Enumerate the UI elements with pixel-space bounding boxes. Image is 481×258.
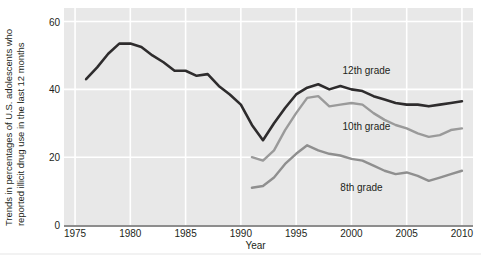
- series-line: [252, 145, 462, 187]
- x-axis-title-text: Year: [245, 240, 265, 251]
- y-axis-title-line-2: reported illicit drug use in the last 12…: [15, 42, 26, 226]
- x-tick-label: 1985: [174, 228, 196, 239]
- x-tick-label: 2000: [340, 228, 362, 239]
- series-label-10th-grade: 10th grade: [343, 121, 391, 132]
- x-tick-label: 2010: [451, 228, 473, 239]
- x-axis-title: Year: [0, 240, 481, 251]
- x-tick-label: 1980: [119, 228, 141, 239]
- x-tick-label: 2005: [396, 228, 418, 239]
- x-tick-label: 1990: [230, 228, 252, 239]
- y-axis-title-line-1: Trends in percentages of U.S. adolescent…: [3, 29, 14, 226]
- footer-rule: [0, 253, 481, 255]
- series-line: [86, 44, 462, 141]
- y-tick-label: 40: [36, 84, 60, 95]
- y-axis-title: Trends in percentages of U.S. adolescent…: [0, 0, 34, 232]
- x-tick-label: 1975: [64, 228, 86, 239]
- y-tick-label: 20: [36, 152, 60, 163]
- x-tick-label: 1995: [285, 228, 307, 239]
- y-tick-label: 60: [36, 16, 60, 27]
- x-axis-baseline: [64, 225, 473, 227]
- series-canvas: [64, 8, 473, 225]
- series-label-12th-grade: 12th grade: [343, 65, 391, 76]
- series-label-8th-grade: 8th grade: [340, 182, 382, 193]
- y-tick-label: 0: [36, 220, 60, 231]
- y-axis-tick-labels: 0204060: [34, 0, 60, 258]
- chart-figure: Trends in percentages of U.S. adolescent…: [0, 0, 481, 258]
- plot-area: [64, 8, 473, 225]
